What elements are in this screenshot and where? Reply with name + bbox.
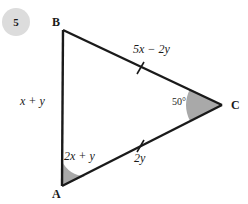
side-ac-line <box>62 105 222 186</box>
side-label-ac: 2y <box>134 152 145 164</box>
angle-sector-c <box>186 89 222 121</box>
geometry-figure: 5 B A C x + y 5x − 2y 2y 2x + y 50° <box>0 0 248 204</box>
angle-sector-a <box>62 161 85 186</box>
vertex-label-c: C <box>231 99 240 111</box>
angle-label-a: 2x + y <box>64 150 95 162</box>
vertex-label-a: A <box>52 188 61 200</box>
vertex-label-b: B <box>52 16 60 28</box>
angle-label-c: 50° <box>172 97 186 107</box>
side-label-ab: x + y <box>20 95 45 107</box>
side-label-bc: 5x − 2y <box>133 43 170 55</box>
side-ab-line <box>62 30 63 186</box>
